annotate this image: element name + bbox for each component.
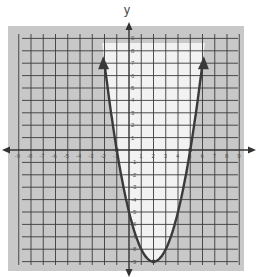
svg-text:-3: -3 [131, 184, 137, 190]
svg-text:-4: -4 [76, 153, 82, 159]
svg-text:-8: -8 [27, 153, 33, 159]
svg-text:-1: -1 [131, 159, 137, 165]
svg-text:-9: -9 [131, 259, 137, 265]
svg-text:-2: -2 [101, 153, 107, 159]
svg-text:-9: -9 [15, 153, 21, 159]
svg-text:-4: -4 [131, 197, 137, 203]
inequality-graph: -9-8-7-6-5-4-3-2-1123456789-9-8-7-6-5-4-… [0, 0, 260, 277]
svg-text:-8: -8 [131, 246, 137, 252]
svg-text:-7: -7 [39, 153, 45, 159]
y-axis-label: y [124, 3, 130, 17]
svg-text:-5: -5 [131, 209, 137, 215]
svg-text:-2: -2 [131, 172, 137, 178]
svg-text:-3: -3 [88, 153, 94, 159]
svg-text:-5: -5 [64, 153, 70, 159]
svg-text:-6: -6 [52, 153, 58, 159]
